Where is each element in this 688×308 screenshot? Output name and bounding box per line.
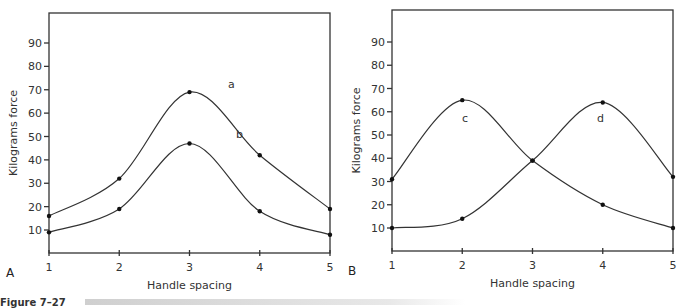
- x-tick-label: 1: [46, 261, 53, 274]
- series-line-b: [49, 144, 330, 235]
- series-line-a: [49, 92, 330, 216]
- plot-frame: [49, 13, 330, 253]
- data-point: [530, 158, 534, 162]
- x-tick-label: 3: [529, 259, 536, 272]
- data-point: [328, 232, 332, 236]
- caption-rule: [85, 299, 465, 305]
- x-tick-label: 3: [186, 261, 193, 274]
- y-tick-label: 40: [28, 154, 42, 167]
- data-point: [671, 226, 675, 230]
- y-tick-label: 80: [28, 60, 42, 73]
- data-point: [47, 214, 51, 218]
- y-tick-label: 60: [28, 107, 42, 120]
- y-tick-label: 30: [371, 176, 385, 189]
- chart-panel-A: 10203040506070809012345Handle spacingKil…: [6, 13, 334, 292]
- data-point: [460, 217, 464, 221]
- panel-label: A: [6, 266, 15, 280]
- x-tick-label: 2: [459, 259, 466, 272]
- y-tick-label: 80: [371, 59, 385, 72]
- y-tick-label: 10: [28, 224, 42, 237]
- data-point: [47, 230, 51, 234]
- panel-label: B: [348, 264, 356, 278]
- y-tick-label: 50: [371, 129, 385, 142]
- chart-panel-B: 10203040506070809012345Handle spacingKil…: [348, 10, 677, 290]
- y-tick-label: 60: [371, 106, 385, 119]
- y-tick-label: 40: [371, 152, 385, 165]
- data-point: [258, 209, 262, 213]
- y-tick-label: 50: [28, 131, 42, 144]
- x-tick-label: 5: [327, 261, 334, 274]
- y-tick-label: 90: [28, 37, 42, 50]
- data-point: [460, 98, 464, 102]
- series-label-b: b: [236, 128, 243, 141]
- y-tick-label: 70: [371, 83, 385, 96]
- y-axis-label: Kilograms force: [350, 87, 363, 173]
- data-point: [601, 100, 605, 104]
- series-line-c: [392, 100, 673, 228]
- data-point: [187, 141, 191, 145]
- series-label-d: d: [597, 112, 604, 125]
- x-tick-label: 4: [256, 261, 263, 274]
- data-point: [390, 177, 394, 181]
- x-tick-label: 1: [389, 259, 396, 272]
- x-tick-label: 2: [116, 261, 123, 274]
- data-point: [117, 176, 121, 180]
- y-axis-label: Kilograms force: [7, 90, 20, 176]
- data-point: [390, 226, 394, 230]
- data-point: [601, 203, 605, 207]
- y-tick-label: 20: [28, 201, 42, 214]
- series-label-c: c: [462, 112, 468, 125]
- data-point: [671, 175, 675, 179]
- y-tick-label: 20: [371, 199, 385, 212]
- x-axis-label: Handle spacing: [490, 277, 575, 290]
- y-tick-label: 30: [28, 177, 42, 190]
- y-tick-label: 70: [28, 84, 42, 97]
- figure-caption: Figure 7–27: [0, 297, 66, 308]
- y-tick-label: 90: [371, 36, 385, 49]
- x-axis-label: Handle spacing: [147, 279, 232, 292]
- data-point: [117, 207, 121, 211]
- y-tick-label: 10: [371, 222, 385, 235]
- data-point: [328, 207, 332, 211]
- x-tick-label: 5: [670, 259, 677, 272]
- series-label-a: a: [228, 78, 235, 91]
- data-point: [187, 90, 191, 94]
- x-tick-label: 4: [599, 259, 606, 272]
- data-point: [258, 153, 262, 157]
